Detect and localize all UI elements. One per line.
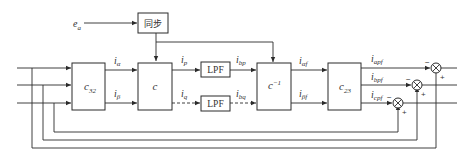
summing-junction-b: − + xyxy=(406,75,426,99)
svg-text:同步: 同步 xyxy=(144,19,162,29)
summing-junction-a: − + xyxy=(425,58,445,82)
sync-block: 同步 xyxy=(138,13,168,33)
c23-block: c23 xyxy=(328,63,361,110)
ibp-label: ibp xyxy=(236,54,246,67)
sync-to-cinv-arrow xyxy=(156,42,273,62)
iq-label: iq xyxy=(181,88,188,101)
svg-text:+: + xyxy=(421,90,426,99)
summing-junction-c: − + xyxy=(387,93,407,117)
c-block: c xyxy=(138,63,172,110)
svg-text:LPF: LPF xyxy=(207,65,223,75)
svg-text:−: − xyxy=(406,75,411,84)
iapf-label: iapf xyxy=(371,53,384,66)
ibpf-label: ibpf xyxy=(371,71,384,84)
block-diagram: ea 同步 c32 iα iβ c ip iq LPF LPF xyxy=(0,0,457,161)
icpf-label: icpf xyxy=(371,89,383,102)
svg-text:LPF: LPF xyxy=(207,99,223,109)
ip-label: ip xyxy=(181,54,188,67)
svg-text:+: + xyxy=(440,73,445,82)
lpf-q-block: LPF xyxy=(201,96,230,111)
ialpha-label: iα xyxy=(114,55,121,68)
svg-text:+: + xyxy=(402,108,407,117)
ibetaf-label: iβf xyxy=(299,88,308,101)
svg-text:ea: ea xyxy=(73,18,81,32)
ialphaf-label: iαf xyxy=(299,55,308,68)
svg-text:−: − xyxy=(387,93,392,102)
c32-block: c32 xyxy=(72,63,105,110)
ibeta-label: iβ xyxy=(114,88,121,101)
ibq-label: ibq xyxy=(236,88,246,101)
svg-text:−: − xyxy=(425,58,430,67)
svg-text:c: c xyxy=(153,80,158,92)
cinv-block: c−1 xyxy=(257,63,291,110)
signal-ea-label: ea xyxy=(73,18,81,32)
lpf-p-block: LPF xyxy=(201,62,230,77)
